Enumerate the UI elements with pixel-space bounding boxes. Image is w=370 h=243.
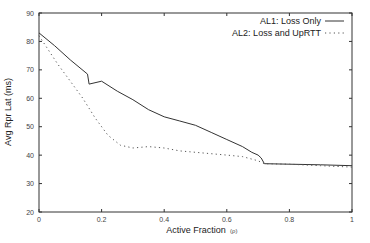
plot-frame xyxy=(39,13,352,212)
series-lines xyxy=(39,33,352,167)
y-tick-label: 70 xyxy=(26,66,34,73)
x-tick-label: 0.6 xyxy=(222,216,232,223)
x-tick-label: 0 xyxy=(37,216,41,223)
legend-item-al1: AL1: Loss Only xyxy=(260,16,344,26)
series-line-al2 xyxy=(39,36,352,167)
y-tick-label: 30 xyxy=(26,180,34,187)
line-chart: 2030405060708090 00.20.40.60.81 Avg Rpr … xyxy=(0,0,370,243)
x-tick-label: 0.2 xyxy=(97,216,107,223)
y-tick-label: 60 xyxy=(26,95,34,102)
y-tick-label: 50 xyxy=(26,123,34,130)
series-line-al1 xyxy=(39,33,352,166)
legend-label-al2: AL2: Loss and UpRTT xyxy=(232,28,321,38)
legend-item-al2: AL2: Loss and UpRTT xyxy=(232,28,344,38)
y-axis: 2030405060708090 xyxy=(26,10,352,216)
y-tick-label: 80 xyxy=(26,38,34,45)
x-axis-label-group: Active Fraction (ρ) xyxy=(166,225,237,235)
x-axis-label: Active Fraction xyxy=(166,225,226,235)
y-tick-label: 20 xyxy=(26,209,34,216)
x-tick-label: 0.4 xyxy=(159,216,169,223)
x-tick-label: 1 xyxy=(350,216,354,223)
y-axis-label: Avg Rpr Lat (ms) xyxy=(3,78,13,146)
x-axis: 00.20.40.60.81 xyxy=(37,13,354,223)
legend: AL1: Loss Only AL2: Loss and UpRTT xyxy=(232,16,344,38)
x-tick-label: 0.8 xyxy=(285,216,295,223)
y-tick-label: 90 xyxy=(26,10,34,17)
legend-label-al1: AL1: Loss Only xyxy=(260,16,322,26)
x-axis-symbol: (ρ) xyxy=(230,228,237,234)
y-tick-label: 40 xyxy=(26,152,34,159)
